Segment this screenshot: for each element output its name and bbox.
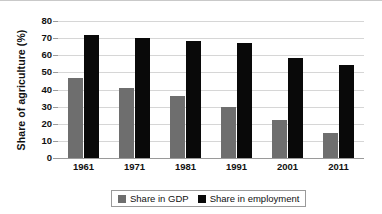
legend-label: Share in employment	[210, 193, 300, 204]
y-tick-mark	[53, 55, 58, 56]
y-axis-title: Share of agriculture (%)	[15, 15, 27, 165]
y-tick-label: 10	[30, 136, 52, 146]
y-tick-label: 20	[30, 119, 52, 129]
legend-label: Share in GDP	[130, 193, 189, 204]
gridline	[58, 158, 364, 159]
x-tick-label: 1981	[162, 161, 210, 172]
y-tick-label: 40	[30, 85, 52, 95]
y-tick-mark	[53, 38, 58, 39]
x-tick-label: 1971	[111, 161, 159, 172]
grouped-bar-chart: Share of agriculture (%) 010203040506070…	[0, 0, 382, 214]
legend-item: Share in employment	[198, 193, 300, 204]
y-tick-label: 70	[30, 33, 52, 43]
y-tick-label: 0	[30, 153, 52, 163]
y-tick-mark	[53, 124, 58, 125]
gray-square-swatch	[118, 195, 126, 203]
black-square-swatch	[198, 195, 206, 203]
y-tick-mark	[53, 141, 58, 142]
y-axis-ticks: 01020304050607080	[58, 21, 364, 158]
y-tick-mark	[53, 107, 58, 108]
y-tick-label: 80	[30, 16, 52, 26]
x-tick-label: 2001	[264, 161, 312, 172]
y-tick-label: 30	[30, 102, 52, 112]
x-tick-label: 1991	[213, 161, 261, 172]
y-tick-mark	[53, 72, 58, 73]
legend-item: Share in GDP	[118, 193, 189, 204]
y-tick-label: 50	[30, 68, 52, 78]
x-tick-label: 2011	[315, 161, 363, 172]
y-tick-label: 60	[30, 51, 52, 61]
y-tick-mark	[53, 90, 58, 91]
chart-legend: Share in GDPShare in employment	[111, 190, 306, 207]
y-tick-mark	[53, 158, 58, 159]
x-tick-label: 1961	[60, 161, 108, 172]
x-axis-labels: 196119711981199120012011	[58, 161, 364, 177]
y-tick-mark	[53, 21, 58, 22]
